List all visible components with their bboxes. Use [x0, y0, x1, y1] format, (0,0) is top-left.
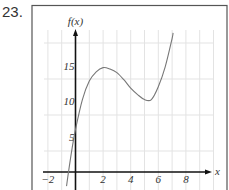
x-tick-label: 4: [128, 173, 134, 185]
function-curve: [67, 33, 174, 186]
x-tick-label: 8: [183, 173, 189, 185]
x-tick-label: −2: [41, 173, 54, 185]
x-axis-arrow-icon: [205, 170, 212, 175]
y-tick-label: 10: [64, 95, 76, 107]
x-tick-label: 2: [100, 173, 106, 185]
x-axis-label: x: [214, 165, 220, 177]
tick-labels: −2246851015: [41, 60, 189, 186]
x-tick-label: 6: [156, 173, 162, 185]
y-axis-arrow-icon: [73, 29, 78, 36]
y-tick-label: 15: [64, 60, 76, 72]
function-graph: −2246851015 x f(x): [0, 0, 229, 190]
y-axis-label: f(x): [68, 15, 84, 28]
